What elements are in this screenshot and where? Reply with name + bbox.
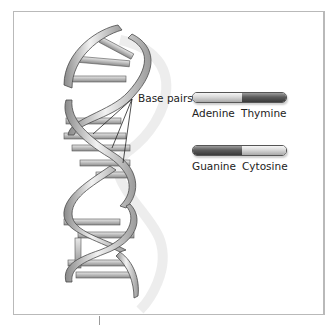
thymine-segment [242,93,286,102]
guanine-cytosine-bar [192,145,287,156]
guanine-label: Guanine [192,160,236,172]
adenine-label: Adenine [192,107,235,119]
cytosine-segment [242,146,286,155]
cytosine-label: Cytosine [242,160,288,172]
callout-base-pairs-label: Base pairs [138,92,193,104]
adenine-thymine-bar [192,92,287,103]
thymine-label: Thymine [241,107,287,119]
adenine-segment [193,93,242,102]
guanine-segment [193,146,242,155]
